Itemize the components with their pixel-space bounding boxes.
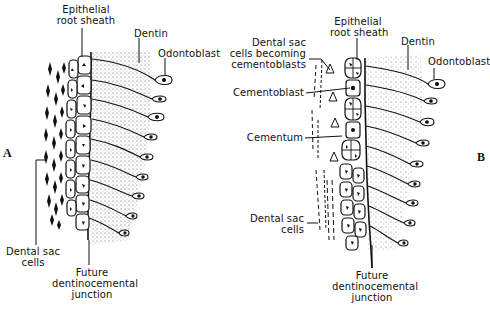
label-epithelial-root-sheath-b: Epithelial root sheath bbox=[330, 16, 386, 38]
label-future-junction-a: Future dentinocemental junction bbox=[52, 267, 132, 300]
panel-a-drawing bbox=[36, 28, 172, 265]
label-epithelial-root-sheath-a: Epithelial root sheath bbox=[56, 4, 116, 26]
label-line: Epithelial bbox=[56, 4, 116, 15]
label-odontoblast-b: Odontoblast bbox=[428, 56, 490, 67]
label-line: junction bbox=[332, 292, 412, 303]
label-dentin-a: Dentin bbox=[134, 28, 168, 39]
label-line: Epithelial bbox=[330, 16, 386, 27]
label-line: cells becoming bbox=[226, 48, 306, 59]
panel-label-a: A bbox=[3, 146, 12, 161]
label-dental-sac-cells-b: Dental sac cells bbox=[246, 213, 304, 235]
label-line: Future bbox=[332, 270, 412, 281]
panel-label-b: B bbox=[477, 150, 485, 165]
label-line: Dental sac bbox=[246, 213, 304, 224]
label-line: cells bbox=[246, 224, 304, 235]
label-line: dentinocemental bbox=[332, 281, 412, 292]
label-line: junction bbox=[52, 289, 132, 300]
label-line: root sheath bbox=[330, 27, 386, 38]
label-line: Future bbox=[52, 267, 132, 278]
label-dentin-b: Dentin bbox=[401, 36, 435, 47]
label-line: Dental sac bbox=[4, 246, 62, 257]
label-future-junction-b: Future dentinocemental junction bbox=[332, 270, 412, 303]
label-dental-sac-becoming-cementoblasts-b: Dental sac cells becoming cementoblasts bbox=[226, 37, 306, 70]
label-cementoblast-b: Cementoblast bbox=[232, 87, 304, 98]
label-dental-sac-cells-a: Dental sac cells bbox=[4, 246, 62, 268]
label-cementum-b: Cementum bbox=[240, 132, 303, 143]
label-line: Dental sac bbox=[226, 37, 306, 48]
dental-sac-cells-a bbox=[44, 62, 66, 230]
label-line: cementoblasts bbox=[226, 59, 306, 70]
label-line: root sheath bbox=[56, 15, 116, 26]
label-line: dentinocemental bbox=[52, 278, 132, 289]
dental-sac-cells-b bbox=[312, 60, 339, 240]
label-odontoblast-a: Odontoblast bbox=[158, 48, 220, 59]
panel-b-drawing bbox=[305, 38, 445, 268]
